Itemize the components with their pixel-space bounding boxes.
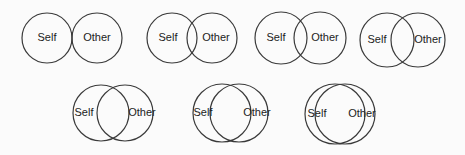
venn-pair-1: SelfOther — [22, 13, 122, 63]
ios-scale-diagram: SelfOtherSelfOtherSelfOtherSelfOtherSelf… — [0, 0, 465, 155]
venn-pair-6: SelfOther — [193, 84, 271, 142]
other-label: Other — [128, 106, 156, 118]
self-label: Self — [159, 31, 179, 43]
other-label: Other — [83, 31, 111, 43]
self-label: Self — [194, 106, 214, 118]
venn-pair-5: SelfOther — [73, 85, 156, 141]
venn-pair-3: SelfOther — [255, 12, 346, 64]
self-label: Self — [38, 31, 58, 43]
venn-pair-7: SelfOther — [305, 84, 376, 144]
self-label: Self — [368, 33, 388, 45]
other-label: Other — [243, 106, 271, 118]
other-label: Other — [202, 31, 230, 43]
self-label: Self — [75, 106, 95, 118]
self-label: Self — [308, 107, 328, 119]
other-label: Other — [311, 31, 339, 43]
venn-pair-4: SelfOther — [360, 13, 445, 67]
venn-pair-2: SelfOther — [147, 13, 237, 63]
self-label: Self — [267, 31, 287, 43]
other-label: Other — [414, 33, 442, 45]
other-label: Other — [348, 107, 376, 119]
